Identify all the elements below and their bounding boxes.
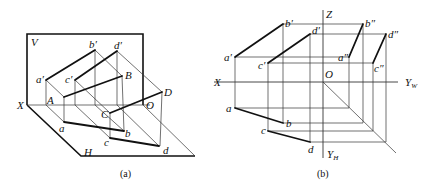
label-d-prime: d′ <box>114 39 123 51</box>
label-a: a <box>226 102 232 114</box>
label-c: c <box>104 136 109 148</box>
caption-a: (a) <box>120 168 131 180</box>
line-AB <box>64 76 122 97</box>
label-b: b <box>286 117 292 129</box>
label-b-dprime: b″ <box>365 17 376 29</box>
line-c-prime-d-prime <box>268 34 310 63</box>
diagonal-45 <box>323 82 396 153</box>
proj-line-b4 <box>122 76 124 131</box>
figure-a: V H X O A B C D a′ b′ c′ d′ a b c d (a) <box>16 34 195 180</box>
label-B: B <box>125 69 132 81</box>
label-c: c <box>261 124 266 136</box>
label-a-prime: a′ <box>224 51 233 63</box>
label-c-dprime: c″ <box>374 62 384 74</box>
label-b: b <box>125 127 131 139</box>
caption-b: (b) <box>317 168 329 180</box>
label-b-prime: b′ <box>285 17 294 29</box>
label-d: d <box>308 143 314 155</box>
label-d-dprime: d″ <box>388 28 399 40</box>
label-d-prime: d′ <box>312 24 321 36</box>
figure-b: Z X O YW YH a′ b′ c′ d′ a″ b″ c″ d″ a b … <box>213 8 418 180</box>
label-O: O <box>146 99 154 111</box>
label-a: a <box>59 122 65 134</box>
label-X: X <box>16 99 25 111</box>
label-D: D <box>163 86 172 98</box>
proj-line-a3 <box>46 105 64 122</box>
label-O: O <box>325 68 333 80</box>
label-V: V <box>31 36 39 48</box>
label-b-prime: b′ <box>89 38 98 50</box>
label-c-prime: c′ <box>258 59 266 71</box>
h-plane-edge <box>143 105 195 156</box>
proj-line-d4 <box>160 92 162 146</box>
label-a-prime: a′ <box>36 73 45 85</box>
line-cd <box>268 131 310 142</box>
label-X: X <box>213 76 222 88</box>
label-a-dprime: a″ <box>338 51 349 63</box>
label-d: d <box>163 144 169 156</box>
projection-diagram: V H X O A B C D a′ b′ c′ d′ a b c d (a) <box>0 0 428 190</box>
line-c-dprime-d-dprime <box>373 34 386 63</box>
label-Yh: YH <box>327 148 339 162</box>
label-C: C <box>101 108 109 120</box>
line-ab <box>235 108 283 123</box>
line-a-dprime-b-dprime <box>349 24 363 57</box>
label-A: A <box>46 94 54 106</box>
label-H: H <box>83 146 93 158</box>
proj-line-d1 <box>117 51 162 92</box>
label-c-prime: c′ <box>65 73 73 85</box>
label-Z: Z <box>326 8 333 20</box>
label-Yw: YW <box>405 76 418 90</box>
line-a-prime-b-prime <box>235 24 283 57</box>
line-CD <box>110 92 162 113</box>
